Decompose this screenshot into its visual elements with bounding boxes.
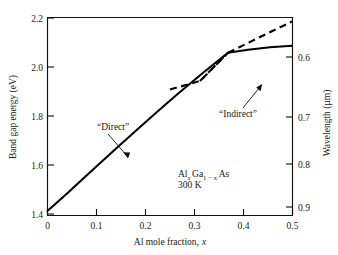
material-formula: AlxGa1 − xAs <box>178 169 230 181</box>
indirect-annotation-label: “Indirect” <box>219 109 257 119</box>
direct-leader-arrowhead <box>123 152 130 158</box>
ytick-label-2: 1.8 <box>31 112 43 122</box>
left-axis-tick-labels: 2.2 2.0 1.8 1.6 1.4 <box>31 14 43 220</box>
right-axis-ticks <box>286 57 293 207</box>
band-gap-chart: 2.2 2.0 1.8 1.6 1.4 Band gap energy (eV)… <box>0 0 338 255</box>
y2tick-label-2: 0.8 <box>298 160 310 170</box>
bottom-axis-title-italic: x <box>201 237 207 247</box>
right-axis-title: Wavelength (µm) <box>322 90 333 157</box>
xtick-label-1: 0.1 <box>91 221 103 231</box>
formula-base-as: As <box>219 169 230 179</box>
left-axis-ticks <box>48 18 55 214</box>
indirect-branch-curve <box>228 46 292 53</box>
ytick-label-1: 2.0 <box>31 63 43 73</box>
y2tick-label-1: 0.7 <box>298 113 310 123</box>
xtick-label-4: 0.4 <box>238 221 250 231</box>
bottom-axis-title-main: Al mole fraction, <box>134 237 199 247</box>
ytick-label-0: 2.2 <box>31 14 43 24</box>
dashed-extension-lower <box>170 53 228 90</box>
bottom-axis-title: Al mole fraction,x <box>134 237 207 247</box>
xtick-label-5: 0.5 <box>287 221 299 231</box>
temperature-label: 300 K <box>178 180 202 190</box>
bottom-axis-ticks <box>48 209 293 216</box>
direct-annotation-label: “Direct” <box>97 122 129 132</box>
ytick-label-3: 1.6 <box>31 161 43 171</box>
xtick-label-3: 0.3 <box>189 221 201 231</box>
y2tick-label-3: 0.9 <box>298 203 310 213</box>
formula-base-ga: Ga <box>192 169 204 179</box>
ytick-label-4: 1.4 <box>31 210 43 220</box>
right-axis-tick-labels: 0.6 0.7 0.8 0.9 <box>298 53 310 213</box>
xtick-label-0: 0 <box>45 221 50 231</box>
formula-base-al: Al <box>178 169 188 179</box>
formula-sub-1mx: 1 − x <box>203 174 218 181</box>
xtick-label-2: 0.2 <box>140 221 152 231</box>
left-axis-title: Band gap energy (eV) <box>8 75 19 159</box>
y2tick-label-0: 0.6 <box>298 53 310 63</box>
bottom-axis-tick-labels: 0 0.1 0.2 0.3 0.4 0.5 <box>45 221 299 231</box>
figure-container: 2.2 2.0 1.8 1.6 1.4 Band gap energy (eV)… <box>0 0 338 255</box>
